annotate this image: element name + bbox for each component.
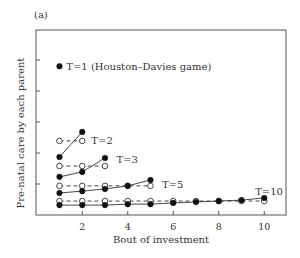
filled-marker: [148, 201, 154, 207]
series-label: T=5: [162, 179, 183, 190]
open-marker: [57, 163, 63, 169]
filled-marker: [125, 201, 131, 207]
filled-marker: [57, 190, 63, 196]
series-line: [60, 132, 83, 157]
filled-marker: [57, 202, 63, 208]
open-marker: [148, 183, 154, 189]
x-tick-label: 6: [170, 221, 176, 232]
filled-marker: [57, 174, 63, 180]
open-marker: [102, 163, 108, 169]
filled-marker: [170, 200, 176, 206]
open-marker: [79, 163, 85, 169]
filled-marker: [102, 155, 108, 161]
x-tick-label: 2: [79, 221, 85, 232]
filled-marker: [57, 63, 63, 69]
x-tick-label: 10: [258, 221, 270, 232]
series-lines: [60, 132, 265, 205]
open-marker: [57, 183, 63, 189]
series-label: T=2: [91, 135, 112, 146]
series-label: T=10: [255, 186, 283, 197]
filled-marker: [79, 169, 85, 175]
filled-marker: [239, 197, 245, 203]
filled-marker: [216, 198, 222, 204]
filled-marker: [102, 202, 108, 208]
filled-marker: [193, 199, 199, 205]
series-labels: T=2T=3T=5T=10T=1 (Houston–Davies game): [66, 61, 283, 198]
series-line: [60, 198, 265, 205]
filled-marker: [148, 177, 154, 183]
filled-marker: [79, 202, 85, 208]
series-label: T=3: [116, 154, 137, 165]
open-marker: [57, 138, 63, 144]
series-label: T=1 (Houston–Davies game): [66, 61, 211, 72]
x-axis-ticks: 246810: [79, 211, 270, 232]
filled-marker: [125, 183, 131, 189]
filled-marker: [57, 154, 63, 160]
filled-marker: [102, 186, 108, 192]
y-axis-ticks: [36, 60, 40, 184]
x-tick-label: 4: [125, 221, 131, 232]
chart-plot-area: 246810 T=2T=3T=5T=10T=1 (Houston–Davies …: [0, 0, 300, 258]
open-marker: [79, 183, 85, 189]
x-tick-label: 8: [216, 221, 222, 232]
open-marker: [79, 138, 85, 144]
filled-marker: [79, 188, 85, 194]
filled-marker: [79, 129, 85, 135]
